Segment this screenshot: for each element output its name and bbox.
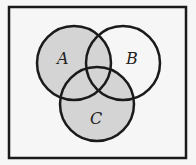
venn-diagram: A B C xyxy=(0,0,196,165)
label-b: B xyxy=(125,49,138,68)
label-a: A xyxy=(55,49,69,68)
label-c: C xyxy=(90,109,102,128)
